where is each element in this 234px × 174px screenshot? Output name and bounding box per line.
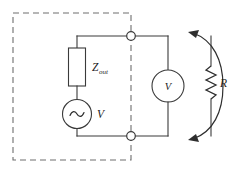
source-voltage-label: V — [97, 108, 106, 120]
terminal-node-top — [127, 32, 136, 41]
zout-label-subscript: out — [99, 68, 109, 76]
terminal-node-bottom — [127, 132, 136, 141]
resistor-zigzag-body — [206, 66, 216, 99]
resistor-label: R — [219, 77, 227, 89]
zout-label: Zout — [92, 61, 109, 76]
terminal-span-arrow-curve — [193, 33, 223, 139]
circuit-diagram: Zout V V R — [0, 0, 234, 174]
zout-resistor-body — [69, 48, 86, 86]
terminal-span-arrow-head-top — [188, 30, 199, 38]
terminal-span-arrow-head-bottom — [188, 134, 199, 142]
circuit-schematic-canvas: Zout V V R — [0, 0, 234, 174]
